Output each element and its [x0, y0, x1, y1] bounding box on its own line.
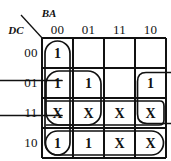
cell-r11-c00: X — [52, 106, 62, 121]
row-header-0: 00 — [24, 45, 38, 60]
cell-r11-c01: X — [83, 106, 93, 121]
row-header-3: 10 — [24, 135, 38, 150]
row-header-2: 11 — [24, 105, 37, 120]
karnaugh-map-figure: BA DC 00 01 11 10 00 01 11 10 1 1 1 1 X … — [0, 0, 171, 161]
top-variable-label: BA — [41, 7, 57, 19]
column-header-3: 10 — [144, 22, 158, 37]
karnaugh-map-canvas: BA DC 00 01 11 10 00 01 11 10 1 1 1 1 X … — [0, 0, 171, 161]
row-header-1: 01 — [24, 75, 38, 90]
cell-r10-c11: X — [114, 136, 124, 151]
side-variable-label: DC — [7, 24, 24, 36]
cell-r01-c00: 1 — [54, 76, 61, 91]
cell-r01-c10: 1 — [147, 76, 154, 91]
axis-diagonal-line — [21, 15, 43, 39]
cell-r00-c00: 1 — [54, 46, 61, 61]
cell-r11-c10: X — [145, 106, 155, 121]
cell-r10-c00: 1 — [54, 136, 61, 151]
column-header-2: 11 — [113, 22, 126, 37]
cell-r11-c11: X — [114, 106, 124, 121]
column-header-0: 00 — [51, 22, 65, 37]
cell-r10-c10: X — [145, 136, 155, 151]
cell-r01-c01: 1 — [85, 76, 92, 91]
column-header-1: 01 — [82, 22, 96, 37]
cell-r10-c01: 1 — [85, 136, 92, 151]
